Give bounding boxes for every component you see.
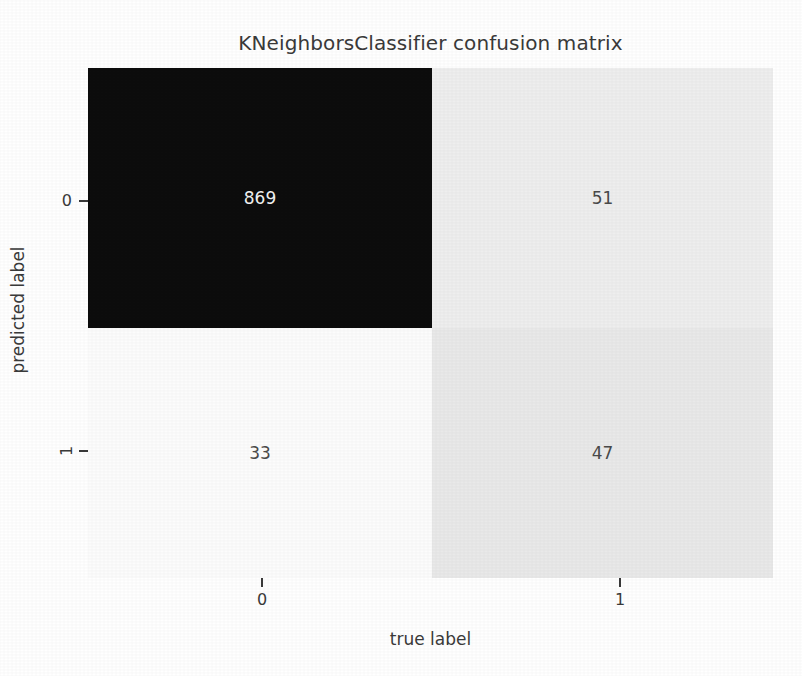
x-tick-0: 0 [242, 578, 282, 608]
chart-title: KNeighborsClassifier confusion matrix [88, 31, 773, 55]
x-tick-0-label: 0 [257, 592, 267, 608]
matrix-cell-1-0-value: 33 [249, 445, 271, 462]
matrix-cell-0-1-value: 51 [592, 190, 614, 207]
x-axis-label: true label [88, 629, 773, 649]
x-tick-1-mark [619, 578, 621, 587]
y-tick-1: 1 [20, 440, 88, 462]
x-tick-1-label: 1 [615, 592, 625, 608]
y-tick-0-mark [79, 200, 88, 202]
y-axis-label-text: predicted label [8, 246, 28, 373]
matrix-cell-0-0-value: 869 [244, 190, 276, 207]
y-tick-1-label: 1 [59, 446, 75, 456]
x-tick-0-mark [261, 578, 263, 587]
confusion-matrix-grid: 869 51 33 47 [88, 68, 773, 578]
matrix-cell-0-0[interactable]: 869 [88, 68, 432, 328]
matrix-cell-0-1[interactable]: 51 [432, 68, 773, 328]
y-tick-1-mark [79, 450, 88, 452]
matrix-cell-1-1[interactable]: 47 [432, 328, 773, 578]
confusion-matrix-figure: KNeighborsClassifier confusion matrix pr… [0, 0, 802, 676]
matrix-cell-1-0[interactable]: 33 [88, 328, 432, 578]
matrix-cell-1-1-value: 47 [592, 445, 614, 462]
matrix-plot-area: 869 51 33 47 [88, 68, 773, 578]
y-tick-0: 0 [20, 190, 88, 212]
x-tick-1: 1 [600, 578, 640, 608]
y-axis-label: predicted label [0, 0, 36, 676]
y-tick-0-label: 0 [62, 193, 72, 209]
